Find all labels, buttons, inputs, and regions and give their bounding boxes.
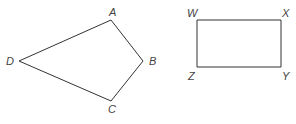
vertex-label-y: Y xyxy=(282,70,290,82)
geometry-diagram: A B C D W X Y Z xyxy=(0,0,296,124)
kite-ABCD xyxy=(19,20,143,101)
vertex-label-w: W xyxy=(187,7,199,19)
vertex-label-a: A xyxy=(108,6,116,18)
vertex-label-z: Z xyxy=(187,70,196,82)
vertex-label-d: D xyxy=(6,55,14,67)
vertex-label-x: X xyxy=(281,7,290,19)
vertex-label-b: B xyxy=(149,55,156,67)
rectangle-WXYZ xyxy=(197,20,281,67)
vertex-label-c: C xyxy=(108,103,116,115)
